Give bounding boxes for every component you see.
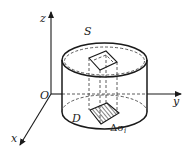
surface-element xyxy=(89,51,117,70)
top-surface-ellipse xyxy=(62,43,147,77)
y-axis-label: y xyxy=(172,95,180,108)
origin-label: O xyxy=(40,89,49,102)
cylinder-diagram: z S O y x D Δσi xyxy=(0,0,187,167)
z-axis-label: z xyxy=(39,12,46,25)
x-axis-label: x xyxy=(11,132,18,145)
surface-label: S xyxy=(84,25,92,38)
area-element-delta-sigma xyxy=(90,103,119,124)
area-element-label: Δσi xyxy=(110,122,126,135)
region-label: D xyxy=(71,112,81,125)
